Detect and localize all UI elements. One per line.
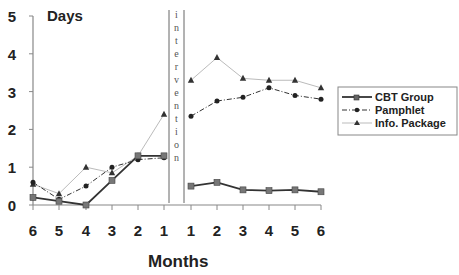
x-ticks: 654321123456 bbox=[29, 205, 325, 239]
circle-marker-icon bbox=[241, 95, 246, 100]
x-tick-label: 3 bbox=[108, 222, 116, 239]
x-tick-label: 4 bbox=[265, 222, 274, 239]
circle-marker-icon bbox=[267, 85, 272, 90]
svg-text:t: t bbox=[175, 35, 178, 46]
circle-marker-icon bbox=[31, 180, 36, 185]
svg-text:e: e bbox=[174, 48, 179, 59]
svg-text:n: n bbox=[174, 22, 179, 33]
svg-text:v: v bbox=[174, 74, 179, 85]
svg-text:e: e bbox=[174, 87, 179, 98]
intervention-label: intervention bbox=[174, 9, 179, 163]
svg-text:i: i bbox=[175, 126, 178, 137]
circle-marker-icon bbox=[110, 165, 115, 170]
square-marker-icon bbox=[214, 179, 220, 185]
y-tick-label: 1 bbox=[8, 159, 16, 176]
circle-marker-icon bbox=[189, 114, 194, 119]
svg-text:i: i bbox=[175, 9, 178, 20]
square-marker-icon bbox=[83, 202, 89, 208]
svg-text:t: t bbox=[175, 113, 178, 124]
svg-text:n: n bbox=[174, 152, 179, 163]
circle-marker-icon bbox=[84, 184, 89, 189]
square-marker-icon bbox=[292, 187, 298, 193]
x-tick-label: 5 bbox=[55, 222, 63, 239]
series-line-cbt-group bbox=[33, 156, 164, 205]
y-tick-label: 0 bbox=[8, 197, 16, 214]
circle-marker-icon bbox=[215, 99, 220, 104]
y-ticks: 012345 bbox=[8, 8, 33, 214]
x-tick-label: 6 bbox=[29, 222, 37, 239]
square-marker-icon bbox=[266, 188, 272, 194]
circle-marker-icon bbox=[355, 108, 360, 113]
y-tick-label: 5 bbox=[8, 8, 16, 25]
x-tick-label: 1 bbox=[160, 222, 168, 239]
square-marker-icon bbox=[161, 153, 167, 159]
circle-marker-icon bbox=[319, 97, 324, 102]
square-marker-icon bbox=[318, 189, 324, 195]
x-tick-label: 3 bbox=[239, 222, 247, 239]
y-tick-label: 3 bbox=[8, 84, 16, 101]
svg-text:r: r bbox=[175, 61, 179, 72]
chart-canvas: intervention Days Months 012345 65432112… bbox=[0, 0, 459, 275]
svg-text:o: o bbox=[174, 139, 179, 150]
triangle-marker-icon bbox=[214, 54, 220, 60]
x-tick-label: 6 bbox=[317, 222, 325, 239]
y-axis-title: Days bbox=[47, 7, 83, 24]
square-marker-icon bbox=[354, 95, 359, 100]
triangle-marker-icon bbox=[240, 75, 246, 81]
series-line-info-package bbox=[33, 114, 164, 193]
series-line-cbt-group bbox=[191, 182, 321, 191]
series-line-info-package bbox=[191, 58, 321, 88]
triangle-marker-icon bbox=[83, 164, 89, 170]
square-marker-icon bbox=[188, 183, 194, 189]
square-marker-icon bbox=[30, 194, 36, 200]
x-tick-label: 2 bbox=[134, 222, 142, 239]
svg-text:n: n bbox=[174, 100, 179, 111]
square-marker-icon bbox=[240, 187, 246, 193]
legend-label-pamphlet: Pamphlet bbox=[375, 104, 425, 116]
square-marker-icon bbox=[135, 153, 141, 159]
series-line-pamphlet bbox=[191, 88, 321, 116]
line-chart: intervention Days Months 012345 65432112… bbox=[0, 0, 459, 275]
x-tick-label: 5 bbox=[291, 222, 299, 239]
square-marker-icon bbox=[56, 198, 62, 204]
triangle-marker-icon bbox=[161, 111, 167, 117]
y-tick-label: 2 bbox=[8, 121, 16, 138]
circle-marker-icon bbox=[293, 93, 298, 98]
x-axis-title: Months bbox=[148, 252, 208, 271]
y-tick-label: 4 bbox=[8, 46, 17, 63]
x-tick-label: 4 bbox=[82, 222, 91, 239]
square-marker-icon bbox=[109, 177, 115, 183]
x-tick-label: 2 bbox=[213, 222, 221, 239]
legend: CBT Group Pamphlet Info. Package bbox=[338, 87, 457, 135]
x-tick-label: 1 bbox=[187, 222, 195, 239]
legend-label-cbt: CBT Group bbox=[375, 91, 434, 103]
legend-label-info: Info. Package bbox=[375, 117, 446, 129]
